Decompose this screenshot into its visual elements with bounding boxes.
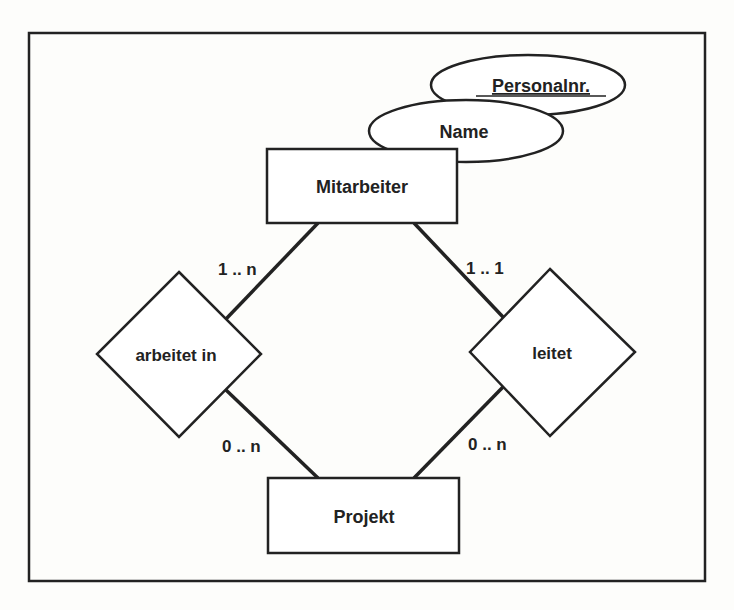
attribute-name-label: Name bbox=[439, 122, 488, 142]
relationship-arbeitet-in: arbeitet in bbox=[97, 272, 261, 437]
cardinality-arbeitet-in-projekt: 0 .. n bbox=[222, 437, 261, 456]
entity-projekt: Projekt bbox=[268, 478, 459, 553]
cardinality-mitarbeiter-leitet: 1 .. 1 bbox=[466, 259, 504, 278]
er-diagram: Personalnr. Name Mitarbeiter arbeitet in… bbox=[0, 0, 734, 610]
entity-mitarbeiter: Mitarbeiter bbox=[267, 149, 457, 223]
relationship-arbeitet-in-label: arbeitet in bbox=[135, 346, 216, 365]
cardinality-mitarbeiter-arbeitet-in: 1 .. n bbox=[218, 260, 257, 279]
line-leitet-projekt bbox=[414, 387, 503, 478]
line-arbeitet-in-projekt bbox=[226, 390, 318, 478]
cardinality-leitet-projekt: 0 .. n bbox=[468, 435, 507, 454]
relationship-leitet: leitet bbox=[470, 269, 635, 436]
relationship-leitet-label: leitet bbox=[532, 344, 572, 363]
entity-mitarbeiter-label: Mitarbeiter bbox=[316, 177, 408, 197]
attribute-personalnr-label: Personalnr. bbox=[492, 76, 590, 96]
entity-projekt-label: Projekt bbox=[333, 507, 394, 527]
connectors bbox=[226, 223, 503, 478]
